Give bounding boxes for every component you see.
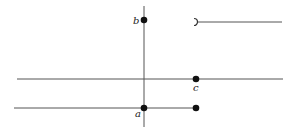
diagram-canvas: b c a: [0, 0, 291, 136]
label-c: c: [193, 82, 199, 93]
point-bottom-right: [193, 105, 200, 112]
label-a: a: [135, 108, 141, 119]
label-b: b: [133, 15, 139, 26]
points-group: [141, 17, 200, 112]
point-b: [141, 17, 148, 24]
open-endpoint-marker: [194, 19, 198, 26]
lines-group: [14, 6, 283, 127]
point-a: [141, 105, 148, 112]
